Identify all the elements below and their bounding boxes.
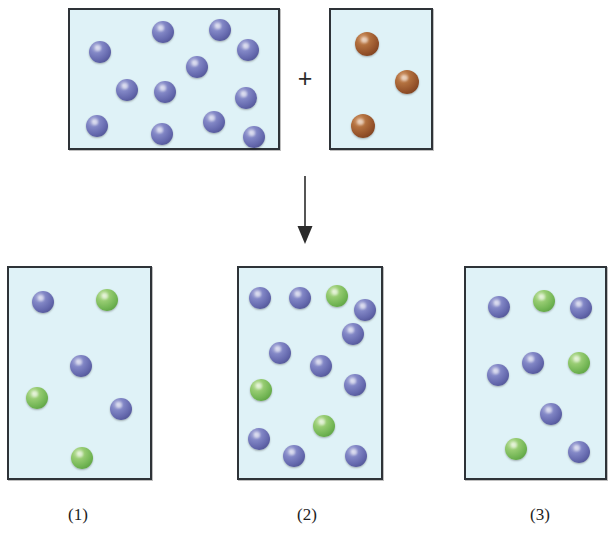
blue-sphere <box>540 403 562 425</box>
blue-sphere <box>203 111 225 133</box>
blue-sphere <box>522 352 544 374</box>
blue-sphere <box>249 287 271 309</box>
blue-sphere <box>151 123 173 145</box>
brown-sphere <box>395 70 419 94</box>
blue-sphere <box>310 355 332 377</box>
green-sphere <box>26 387 48 409</box>
blue-sphere <box>487 364 509 386</box>
product-box-2 <box>237 266 383 480</box>
diagram-canvas: +(1)(2)(3) <box>0 0 612 533</box>
reaction-arrow-icon <box>294 176 316 250</box>
blue-sphere <box>568 441 590 463</box>
blue-sphere <box>32 291 54 313</box>
sphere-field <box>466 268 605 478</box>
product-box-1 <box>7 266 152 480</box>
green-sphere <box>313 415 335 437</box>
blue-sphere <box>570 297 592 319</box>
blue-sphere <box>70 355 92 377</box>
green-sphere <box>505 438 527 460</box>
brown-sphere <box>351 114 375 138</box>
blue-sphere <box>86 115 108 137</box>
blue-sphere <box>283 445 305 467</box>
blue-sphere <box>289 287 311 309</box>
product-label-1: (1) <box>68 505 88 525</box>
blue-sphere <box>345 445 367 467</box>
blue-sphere <box>488 296 510 318</box>
sphere-field <box>70 10 278 148</box>
green-sphere <box>533 290 555 312</box>
blue-sphere <box>152 21 174 43</box>
sphere-field <box>331 10 431 148</box>
blue-sphere <box>237 39 259 61</box>
plus-icon: + <box>298 66 313 91</box>
blue-sphere <box>116 79 138 101</box>
blue-sphere <box>235 87 257 109</box>
blue-sphere <box>248 428 270 450</box>
green-sphere <box>326 285 348 307</box>
blue-sphere <box>354 299 376 321</box>
green-sphere <box>71 447 93 469</box>
reactant-box-blue <box>68 8 280 150</box>
blue-sphere <box>269 342 291 364</box>
green-sphere <box>250 379 272 401</box>
blue-sphere <box>154 81 176 103</box>
product-label-2: (2) <box>297 505 317 525</box>
blue-sphere <box>186 56 208 78</box>
blue-sphere <box>344 374 366 396</box>
blue-sphere <box>89 41 111 63</box>
green-sphere <box>96 289 118 311</box>
sphere-field <box>239 268 381 478</box>
green-sphere <box>568 352 590 374</box>
product-box-3 <box>464 266 607 480</box>
sphere-field <box>9 268 150 478</box>
reactant-box-brown <box>329 8 433 150</box>
blue-sphere <box>243 126 265 148</box>
blue-sphere <box>342 323 364 345</box>
blue-sphere <box>110 398 132 420</box>
blue-sphere <box>209 19 231 41</box>
brown-sphere <box>355 32 379 56</box>
product-label-3: (3) <box>530 505 550 525</box>
